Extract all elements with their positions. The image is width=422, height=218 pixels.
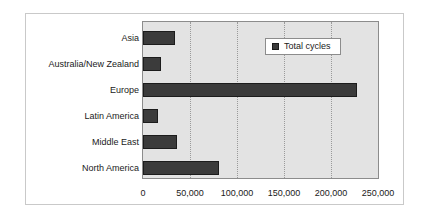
category-label: Australia/New Zealand	[48, 60, 139, 69]
bar-row: Asia	[143, 31, 378, 45]
x-tick-label: 50,000	[176, 189, 204, 198]
bar-total-cycles[interactable]	[143, 109, 158, 123]
bar-total-cycles[interactable]	[143, 31, 175, 45]
bar-total-cycles[interactable]	[143, 83, 357, 97]
category-label: North America	[82, 164, 139, 173]
bar-row: Middle East	[143, 135, 378, 149]
category-label: Europe	[110, 86, 139, 95]
plot-area: Asia Australia/New Zealand Europe Latin …	[142, 21, 379, 179]
bar-row: Latin America	[143, 109, 378, 123]
chart-legend[interactable]: Total cycles	[265, 38, 341, 55]
bar-row: Australia/New Zealand	[143, 57, 378, 71]
category-label: Latin America	[84, 112, 139, 121]
legend-swatch-total-cycles	[272, 43, 279, 50]
category-label: Asia	[121, 34, 139, 43]
x-tick-label: 0	[140, 189, 145, 198]
x-tick-label: 150,000	[268, 189, 301, 198]
bar-row: North America	[143, 161, 378, 175]
bar-total-cycles[interactable]	[143, 161, 219, 175]
bar-total-cycles[interactable]	[143, 135, 177, 149]
x-tick-label: 250,000	[362, 189, 395, 198]
x-tick-label: 100,000	[221, 189, 254, 198]
category-label: Middle East	[92, 138, 139, 147]
legend-label: Total cycles	[284, 42, 331, 51]
bar-row: Europe	[143, 83, 378, 97]
gridline-50000	[190, 22, 191, 178]
gridline-100000	[237, 22, 238, 178]
chart-frame: Asia Australia/New Zealand Europe Latin …	[25, 13, 404, 205]
bar-total-cycles[interactable]	[143, 57, 161, 71]
x-tick-label: 200,000	[315, 189, 348, 198]
